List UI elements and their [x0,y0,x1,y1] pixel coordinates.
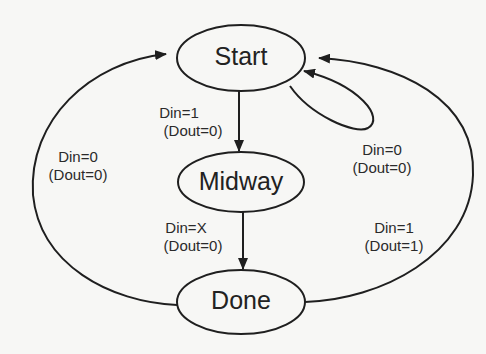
transition-start-self-loop [290,71,373,129]
condition-text: Din=0 [334,141,430,159]
label-done-start-left: Din=0 (Dout=0) [30,148,126,184]
label-midway-done: Din=X (Dout=0) [148,219,238,255]
label-start-midway: Din=1 (Dout=0) [148,104,238,140]
label-start-self-loop: Din=0 (Dout=0) [334,141,430,177]
output-text: (Dout=0) [30,166,126,184]
output-text: (Dout=1) [346,237,442,255]
state-midway-label: Midway [178,167,304,196]
output-text: (Dout=0) [148,237,238,255]
condition-text: Din=X [148,219,238,237]
condition-text: Din=0 [30,148,126,166]
condition-text: Din=1 [148,104,238,122]
output-text: (Dout=0) [334,159,430,177]
state-start-label: Start [177,42,305,71]
condition-text: Din=1 [346,219,442,237]
state-done-label: Done [177,286,305,315]
transition-done-start-right [305,58,473,302]
label-done-start-right: Din=1 (Dout=1) [346,219,442,255]
state-diagram: Start Midway Done Din=1 (Dout=0) Din=0 (… [0,0,486,354]
output-text: (Dout=0) [148,122,238,140]
